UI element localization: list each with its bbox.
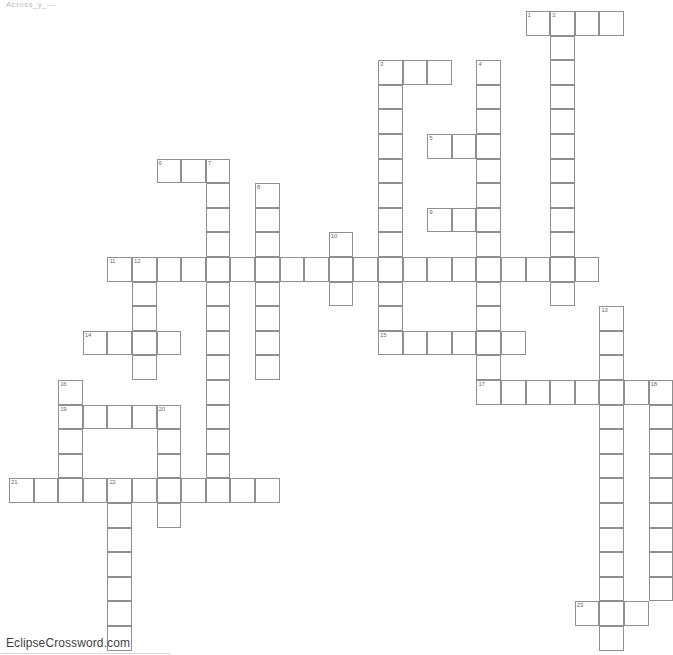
crossword-cell[interactable] (649, 503, 673, 528)
crossword-cell[interactable] (206, 282, 231, 307)
crossword-cell[interactable] (575, 257, 600, 282)
crossword-cell[interactable] (280, 257, 305, 282)
crossword-cell[interactable] (501, 331, 526, 356)
crossword-cell[interactable] (403, 60, 428, 85)
crossword-cell[interactable] (550, 380, 575, 405)
crossword-cell[interactable] (599, 11, 624, 36)
crossword-cell[interactable] (255, 208, 280, 233)
crossword-cell[interactable] (476, 232, 501, 257)
crossword-cell-numbered[interactable]: 14 (83, 331, 108, 356)
crossword-cell-numbered[interactable]: 1 (526, 11, 551, 36)
crossword-cell[interactable] (452, 208, 477, 233)
crossword-cell[interactable] (501, 380, 526, 405)
crossword-cell[interactable] (452, 134, 477, 159)
crossword-cell[interactable] (378, 159, 403, 184)
crossword-cell[interactable] (255, 282, 280, 307)
crossword-cell[interactable] (206, 429, 231, 454)
crossword-cell[interactable] (83, 405, 108, 430)
crossword-cell[interactable] (206, 183, 231, 208)
crossword-cell[interactable] (550, 159, 575, 184)
crossword-cell[interactable] (476, 208, 501, 233)
crossword-cell[interactable] (353, 257, 378, 282)
crossword-cell[interactable] (550, 208, 575, 233)
crossword-cell[interactable] (452, 331, 477, 356)
crossword-cell[interactable] (107, 405, 132, 430)
crossword-cell[interactable] (476, 306, 501, 331)
crossword-cell[interactable] (649, 478, 673, 503)
crossword-cell[interactable] (157, 331, 182, 356)
crossword-cell[interactable] (378, 109, 403, 134)
crossword-cell[interactable] (206, 331, 231, 356)
crossword-cell[interactable] (378, 134, 403, 159)
crossword-cell[interactable] (427, 60, 452, 85)
crossword-cell[interactable] (206, 380, 231, 405)
crossword-cell[interactable] (476, 355, 501, 380)
crossword-cell[interactable] (132, 282, 157, 307)
crossword-cell[interactable] (599, 454, 624, 479)
crossword-cell[interactable] (599, 528, 624, 553)
crossword-cell[interactable] (378, 208, 403, 233)
crossword-cell[interactable] (649, 528, 673, 553)
crossword-cell[interactable] (34, 478, 59, 503)
crossword-cell[interactable] (157, 454, 182, 479)
crossword-cell[interactable] (624, 380, 649, 405)
crossword-cell[interactable] (255, 478, 280, 503)
crossword-cell[interactable] (403, 331, 428, 356)
crossword-cell[interactable] (526, 380, 551, 405)
crossword-cell-numbered[interactable]: 15 (378, 331, 403, 356)
crossword-cell-numbered[interactable]: 23 (575, 601, 600, 626)
crossword-cell[interactable] (132, 405, 157, 430)
crossword-cell[interactable] (206, 208, 231, 233)
crossword-cell[interactable] (476, 134, 501, 159)
crossword-cell-numbered[interactable]: 4 (476, 60, 501, 85)
crossword-cell[interactable] (157, 478, 182, 503)
crossword-cell[interactable] (550, 257, 575, 282)
crossword-cell[interactable] (599, 478, 624, 503)
crossword-cell[interactable] (599, 331, 624, 356)
crossword-cell[interactable] (255, 331, 280, 356)
crossword-cell[interactable] (255, 232, 280, 257)
crossword-cell[interactable] (107, 528, 132, 553)
crossword-cell[interactable] (476, 159, 501, 184)
crossword-cell[interactable] (550, 109, 575, 134)
crossword-cell-numbered[interactable]: 13 (599, 306, 624, 331)
crossword-cell[interactable] (329, 282, 354, 307)
crossword-cell[interactable] (255, 355, 280, 380)
crossword-cell[interactable] (427, 257, 452, 282)
crossword-cell[interactable] (181, 478, 206, 503)
crossword-cell-numbered[interactable]: 12 (132, 257, 157, 282)
crossword-cell[interactable] (624, 601, 649, 626)
crossword-cell[interactable] (206, 306, 231, 331)
crossword-cell[interactable] (304, 257, 329, 282)
crossword-cell[interactable] (83, 478, 108, 503)
crossword-cell-numbered[interactable]: 5 (427, 134, 452, 159)
crossword-cell[interactable] (255, 306, 280, 331)
crossword-cell-numbered[interactable]: 20 (157, 405, 182, 430)
crossword-cell-numbered[interactable]: 2 (550, 11, 575, 36)
crossword-cell[interactable] (107, 503, 132, 528)
crossword-cell[interactable] (476, 109, 501, 134)
crossword-cell[interactable] (132, 331, 157, 356)
crossword-cell[interactable] (599, 577, 624, 602)
crossword-cell[interactable] (427, 331, 452, 356)
crossword-cell-numbered[interactable]: 7 (206, 159, 231, 184)
crossword-cell[interactable] (206, 454, 231, 479)
crossword-cell[interactable] (649, 577, 673, 602)
crossword-cell[interactable] (132, 355, 157, 380)
crossword-cell[interactable] (378, 85, 403, 110)
crossword-cell[interactable] (476, 282, 501, 307)
crossword-cell[interactable] (107, 577, 132, 602)
crossword-cell[interactable] (58, 429, 83, 454)
crossword-cell-numbered[interactable]: 10 (329, 232, 354, 257)
crossword-cell-numbered[interactable]: 16 (58, 380, 83, 405)
crossword-cell[interactable] (107, 331, 132, 356)
crossword-cell-numbered[interactable]: 17 (476, 380, 501, 405)
crossword-cell-numbered[interactable]: 8 (255, 183, 280, 208)
crossword-cell-numbered[interactable]: 9 (427, 208, 452, 233)
crossword-cell[interactable] (599, 601, 624, 626)
crossword-cell[interactable] (476, 183, 501, 208)
crossword-cell[interactable] (206, 478, 231, 503)
crossword-cell[interactable] (206, 355, 231, 380)
crossword-cell[interactable] (550, 60, 575, 85)
crossword-cell[interactable] (550, 282, 575, 307)
